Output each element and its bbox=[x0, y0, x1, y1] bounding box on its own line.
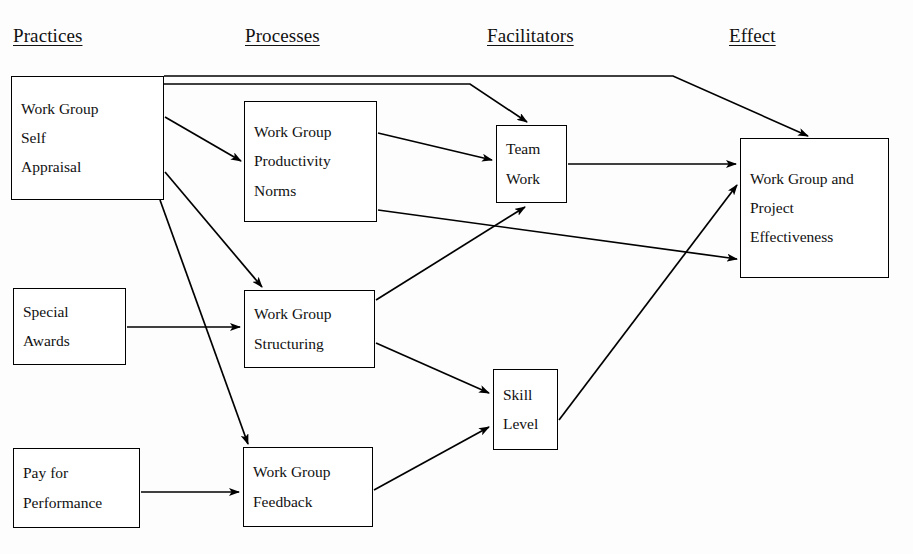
node-line: Special bbox=[23, 304, 120, 320]
node-line: Work Group bbox=[21, 101, 158, 117]
node-work-group-and-project-effectiveness[interactable]: Work Group and Project Effectiveness bbox=[740, 138, 889, 278]
node-line: Skill bbox=[503, 387, 552, 403]
edge-appraisal-to-feedback bbox=[160, 200, 248, 444]
node-work-group-self-appraisal[interactable]: Work Group Self Appraisal bbox=[11, 76, 164, 200]
diagram-canvas: Practices Processes Facilitators Effect … bbox=[0, 0, 913, 554]
node-line: Team bbox=[506, 141, 561, 157]
node-line: Self bbox=[21, 130, 158, 146]
node-line: Project bbox=[750, 200, 883, 216]
edge-productivity-norms-to-effectiveness bbox=[378, 210, 737, 259]
node-team-work[interactable]: Team Work bbox=[496, 125, 567, 203]
node-line: Work Group bbox=[254, 306, 369, 322]
node-line: Feedback bbox=[253, 494, 367, 510]
node-line: Work bbox=[506, 171, 561, 187]
column-header-practices: Practices bbox=[13, 26, 82, 45]
node-line: Performance bbox=[23, 495, 134, 511]
node-line: Work Group bbox=[254, 124, 371, 140]
node-special-awards[interactable]: Special Awards bbox=[13, 288, 126, 365]
node-line: Awards bbox=[23, 333, 120, 349]
edge-feedback-to-skill-level bbox=[374, 427, 489, 490]
node-line: Structuring bbox=[254, 336, 369, 352]
node-work-group-feedback[interactable]: Work Group Feedback bbox=[243, 447, 373, 527]
edge-structuring-to-skill-level bbox=[376, 343, 489, 393]
node-line: Appraisal bbox=[21, 159, 158, 175]
column-header-facilitators: Facilitators bbox=[487, 26, 574, 45]
node-line: Work Group and bbox=[750, 171, 883, 187]
edge-productivity-norms-to-team-work bbox=[378, 133, 492, 160]
node-work-group-productivity-norms[interactable]: Work Group Productivity Norms bbox=[244, 101, 377, 222]
edge-skill-level-to-effectiveness bbox=[559, 185, 737, 420]
node-line: Effectiveness bbox=[750, 229, 883, 245]
node-work-group-structuring[interactable]: Work Group Structuring bbox=[244, 290, 375, 368]
node-line: Level bbox=[503, 416, 552, 432]
node-line: Norms bbox=[254, 183, 371, 199]
node-line: Productivity bbox=[254, 153, 371, 169]
node-line: Work Group bbox=[253, 464, 367, 480]
column-header-effect: Effect bbox=[729, 26, 776, 45]
node-line: Pay for bbox=[23, 465, 134, 481]
edge-appraisal-to-productivity-norms bbox=[165, 117, 241, 161]
node-pay-for-performance[interactable]: Pay for Performance bbox=[13, 448, 140, 528]
edge-structuring-to-team-work bbox=[376, 207, 525, 300]
column-header-processes: Processes bbox=[245, 26, 320, 45]
node-skill-level[interactable]: Skill Level bbox=[493, 369, 558, 450]
